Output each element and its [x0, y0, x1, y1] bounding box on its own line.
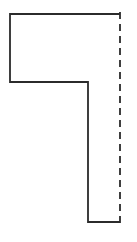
figure-background	[0, 0, 137, 242]
figure-canvas	[0, 0, 137, 242]
line-drawing-svg	[0, 0, 137, 242]
